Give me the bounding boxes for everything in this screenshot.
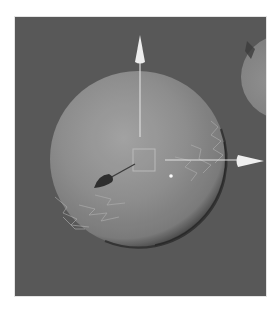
viewport-canvas[interactable] bbox=[15, 17, 267, 297]
page bbox=[0, 0, 280, 312]
render-grain bbox=[15, 17, 267, 297]
3d-viewport[interactable] bbox=[14, 16, 267, 297]
